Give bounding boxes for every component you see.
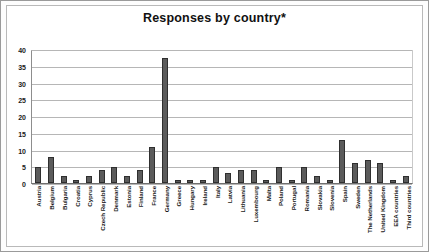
bar: [111, 167, 117, 184]
x-axis-tick-label: Hungary: [188, 186, 195, 210]
bar: [377, 163, 383, 183]
x-axis-label-slot: Malta: [261, 186, 274, 250]
x-axis-tick-label: Luxembourg: [251, 186, 258, 222]
x-axis-tick-label: Greece: [175, 186, 182, 206]
x-axis-label-slot: The Netherlands: [363, 186, 376, 250]
x-axis-tick-label: Croatia: [73, 186, 80, 207]
bar: [403, 176, 409, 183]
bar-slot: [387, 51, 400, 183]
x-axis-tick-label: France: [149, 186, 156, 206]
x-axis-label-slot: Cyprus: [83, 186, 96, 250]
x-axis-label-slot: Luxembourg: [248, 186, 261, 250]
x-axis-tick-label: EEA countries: [391, 186, 398, 227]
bar-slot: [171, 51, 184, 183]
y-axis-tick-label: 5: [22, 164, 26, 171]
x-axis-label-slot: Latvia: [223, 186, 236, 250]
x-axis-tick-label: Latvia: [226, 186, 233, 203]
bar-slot: [323, 51, 336, 183]
bar-slot: [95, 51, 108, 183]
x-axis-label-slot: Denmark: [108, 186, 121, 250]
bar-slot: [32, 51, 45, 183]
chart-title: Responses by country*: [1, 11, 428, 25]
bar-slot: [336, 51, 349, 183]
x-axis-label-slot: Bulgaria: [57, 186, 70, 250]
x-axis-tick-label: Bulgaria: [60, 186, 67, 210]
y-axis-tick-label: 30: [18, 80, 26, 87]
y-axis-tick-label: 10: [18, 147, 26, 154]
x-axis-tick-label: Finland: [137, 186, 144, 207]
x-axis-label-slot: Romania: [299, 186, 312, 250]
bar: [276, 167, 282, 184]
bar: [327, 180, 333, 183]
bar: [162, 58, 168, 183]
bar: [301, 167, 307, 184]
x-axis-tick-label: Italy: [213, 186, 220, 198]
x-axis-tick-label: Czech Republic: [99, 186, 106, 231]
bar-slot: [222, 51, 235, 183]
x-axis-label-slot: Third countries: [401, 186, 414, 250]
x-axis-tick-label: Malta: [264, 186, 271, 201]
x-axis-label-slot: EEA countries: [389, 186, 402, 250]
x-axis-label-slot: Italy: [210, 186, 223, 250]
x-axis: AustriaBelgiumBulgariaCroatiaCyprusCzech…: [32, 186, 414, 250]
y-axis: 4035302520151050: [1, 50, 29, 184]
bar-slot: [260, 51, 273, 183]
bar-slot: [298, 51, 311, 183]
bar-slot: [361, 51, 374, 183]
bar: [48, 157, 54, 183]
x-axis-tick-label: Estonia: [124, 186, 131, 208]
bar-slot: [374, 51, 387, 183]
bar-slot: [133, 51, 146, 183]
y-axis-tick-label: 25: [18, 97, 26, 104]
bar-slot: [70, 51, 83, 183]
x-axis-tick-label: Romania: [302, 186, 309, 211]
bar: [200, 180, 206, 183]
bar: [149, 147, 155, 183]
x-axis-tick-label: Belgium: [48, 186, 55, 210]
bar: [137, 170, 143, 183]
y-axis-tick-label: 20: [18, 114, 26, 121]
x-axis-label-slot: Sweden: [350, 186, 363, 250]
x-axis-tick-label: The Netherlands: [366, 186, 373, 233]
y-axis-tick-label: 40: [18, 47, 26, 54]
chart-frame: Responses by country* 4035302520151050 A…: [0, 0, 429, 252]
bar: [289, 180, 295, 183]
bar-slot: [209, 51, 222, 183]
bar-slot: [273, 51, 286, 183]
y-axis-tick-label: 0: [22, 181, 26, 188]
bar: [86, 176, 92, 183]
bar-slot: [311, 51, 324, 183]
x-axis-tick-label: Denmark: [111, 186, 118, 212]
bar-series: [32, 51, 412, 183]
bar: [61, 176, 67, 183]
bar-slot: [108, 51, 121, 183]
bar: [73, 180, 79, 183]
x-axis-label-slot: Ireland: [198, 186, 211, 250]
bar: [175, 180, 181, 183]
bar-slot: [399, 51, 412, 183]
x-axis-tick-label: Austria: [35, 186, 42, 207]
y-axis-tick-label: 15: [18, 130, 26, 137]
x-axis-label-slot: Portugal: [287, 186, 300, 250]
bar: [352, 163, 358, 183]
x-axis-tick-label: Spain: [340, 186, 347, 202]
bar-slot: [57, 51, 70, 183]
bar-slot: [349, 51, 362, 183]
x-axis-label-slot: Spain: [338, 186, 351, 250]
x-axis-label-slot: Estonia: [121, 186, 134, 250]
x-axis-label-slot: Croatia: [70, 186, 83, 250]
bar-slot: [184, 51, 197, 183]
x-axis-tick-label: Slovenia: [328, 186, 335, 211]
bar: [124, 176, 130, 183]
x-axis-label-slot: Germany: [159, 186, 172, 250]
bar: [187, 180, 193, 183]
x-axis-label-slot: Belgium: [45, 186, 58, 250]
x-axis-tick-label: Ireland: [200, 186, 207, 206]
x-axis-label-slot: Czech Republic: [96, 186, 109, 250]
bar-slot: [121, 51, 134, 183]
x-axis-tick-label: Portugal: [290, 186, 297, 210]
x-axis-label-slot: United Kingdom: [376, 186, 389, 250]
x-axis-label-slot: Greece: [172, 186, 185, 250]
x-axis-label-slot: Finland: [134, 186, 147, 250]
x-axis-label-slot: Poland: [274, 186, 287, 250]
